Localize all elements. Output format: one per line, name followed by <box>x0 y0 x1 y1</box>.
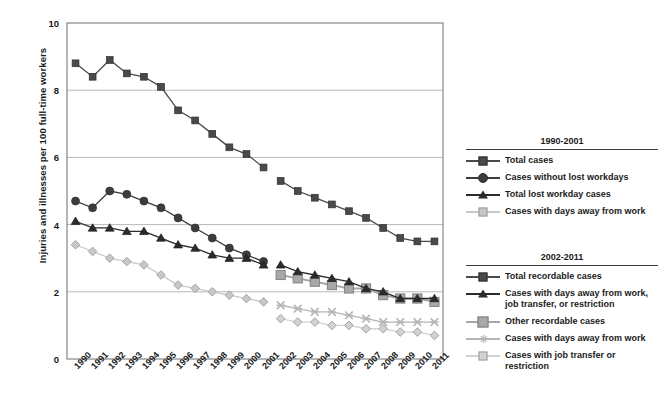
legend-item-label: Cases with days away from work, job tran… <box>505 288 658 310</box>
chart-figure: Injuries and illnesses per 100 full-time… <box>0 0 665 403</box>
series-line <box>71 240 268 306</box>
legend-item-label: Cases with job transfer or restriction <box>505 350 658 372</box>
legend-item[interactable]: Cases with days away from work, job tran… <box>466 288 658 310</box>
legend-item[interactable]: Total recordable cases <box>466 271 658 282</box>
legend-marker-square-icon <box>466 155 500 166</box>
legend-rule <box>466 265 658 266</box>
legend-item[interactable]: ✳Cases with days away from work <box>466 333 658 344</box>
series-line <box>72 187 268 266</box>
legend-item-label: Cases with days away from work <box>505 206 646 217</box>
legend-item-label: Other recordable cases <box>505 316 605 327</box>
legend-item[interactable]: Other recordable cases <box>466 316 658 327</box>
legend-item[interactable]: Total lost workday cases <box>466 189 658 200</box>
legend-marker-square-icon <box>466 271 500 282</box>
legend-item-label: Cases with days away from work <box>505 333 646 344</box>
legend-title: 2002-2011 <box>466 252 658 265</box>
legend-item[interactable]: Total cases <box>466 155 658 166</box>
legend-item-label: Total recordable cases <box>505 271 602 282</box>
legend-2002-2011: 2002-2011 Total recordable casesCases wi… <box>466 252 658 378</box>
series-line <box>72 57 267 171</box>
legend-marker-circle-icon <box>466 172 500 183</box>
legend-title: 1990-2001 <box>466 136 658 149</box>
legend-item[interactable]: Cases with days away from work <box>466 206 658 217</box>
legend-rule <box>466 149 658 150</box>
legend-marker-triangle-icon <box>466 288 500 299</box>
series-line <box>277 178 438 245</box>
legend-marker-diamond-icon <box>466 350 500 361</box>
legend-item[interactable]: Cases with job transfer or restriction <box>466 350 658 372</box>
legend-item-label: Cases without lost workdays <box>505 172 629 183</box>
legend-1990-2001: 1990-2001 Total casesCases without lost … <box>466 136 658 223</box>
legend-item[interactable]: Cases without lost workdays <box>466 172 658 183</box>
legend-marker-triangle-icon <box>466 189 500 200</box>
legend-marker-diamond-icon <box>466 206 500 217</box>
legend-marker-square-light-icon <box>466 316 500 327</box>
legend-marker-x-icon: ✳ <box>466 333 500 344</box>
legend-item-label: Total lost workday cases <box>505 189 611 200</box>
legend-item-label: Total cases <box>505 155 553 166</box>
